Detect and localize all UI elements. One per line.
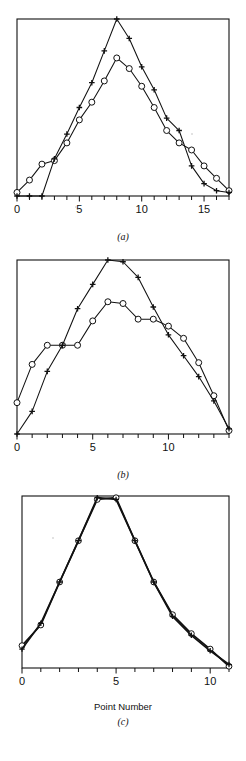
data-point-circle — [76, 117, 82, 123]
scan-speck — [191, 133, 193, 135]
data-point-circle — [64, 140, 70, 146]
scan-speck — [75, 206, 77, 208]
data-point-cross — [139, 64, 145, 70]
data-point-cross — [29, 409, 35, 415]
x-axis-tick-label: 10 — [136, 203, 148, 215]
data-point-circle — [39, 161, 45, 167]
data-point-circle — [90, 318, 96, 324]
data-point-cross — [14, 431, 20, 437]
data-point-circle — [139, 83, 145, 89]
x-axis-tick-label: 5 — [113, 675, 119, 687]
data-point-circle — [196, 360, 202, 366]
data-point-cross — [150, 304, 156, 310]
series-line-circle-series — [17, 58, 229, 193]
data-point-circle — [29, 361, 35, 367]
panel-c-xaxis-title: Point Number — [0, 702, 246, 712]
data-point-cross — [101, 48, 107, 54]
data-point-cross — [44, 369, 50, 375]
panel-b: 0510 — [0, 248, 246, 470]
plot-frame — [17, 19, 229, 196]
data-point-circle — [201, 163, 207, 169]
data-point-circle — [14, 400, 20, 406]
data-point-cross — [105, 257, 111, 263]
figure-three-panel-line-charts: 051015 (a) 0510 (b) 0510 Point Number (c… — [0, 0, 246, 761]
data-point-circle — [150, 316, 156, 322]
data-point-circle — [75, 342, 81, 348]
series-markers-circle-series — [14, 55, 232, 196]
data-point-circle — [44, 342, 50, 348]
data-point-circle — [214, 175, 220, 181]
panel-a-caption: (a) — [0, 232, 246, 242]
x-axis-tick-label: 0 — [14, 203, 20, 215]
data-point-circle — [26, 177, 32, 183]
panel-a: 051015 — [0, 0, 246, 232]
data-point-cross — [114, 16, 120, 22]
x-axis-tick-label: 5 — [90, 441, 96, 453]
data-point-cross — [151, 87, 157, 93]
data-point-cross — [89, 80, 95, 86]
data-point-circle — [89, 99, 95, 105]
panel-b-caption: (b) — [0, 470, 246, 480]
data-point-circle — [164, 128, 170, 134]
data-point-circle — [176, 140, 182, 146]
series-line-cross-series — [17, 19, 229, 196]
data-point-circle — [101, 78, 107, 84]
panel-c: 0510 — [0, 486, 246, 702]
x-axis-tick-label: 10 — [162, 441, 174, 453]
data-point-cross — [75, 306, 81, 312]
data-point-circle — [114, 55, 120, 61]
data-point-cross — [126, 36, 132, 42]
series-line-circle-series — [17, 302, 229, 431]
scan-speck — [52, 537, 54, 539]
series-markers-cross-series — [14, 16, 232, 199]
panel-a-plot: 051015 — [0, 0, 246, 232]
x-axis-tick-label: 0 — [14, 441, 20, 453]
data-point-circle — [126, 66, 132, 72]
x-axis-tick-label: 15 — [198, 203, 210, 215]
data-point-circle — [105, 299, 111, 305]
x-axis-tick-label: 10 — [204, 675, 216, 687]
x-axis-tick-label: 0 — [19, 675, 25, 687]
data-point-circle — [189, 147, 195, 153]
data-point-circle — [165, 323, 171, 329]
panel-c-plot: 0510 — [0, 486, 246, 702]
series-markers-circle-series — [14, 299, 232, 434]
data-point-cross — [77, 105, 83, 111]
data-point-cross — [27, 193, 33, 199]
data-point-cross — [39, 193, 45, 199]
data-point-circle — [151, 105, 157, 111]
data-point-circle — [120, 301, 126, 307]
panel-b-plot: 0510 — [0, 248, 246, 470]
data-point-cross — [214, 188, 220, 194]
data-point-cross — [90, 282, 96, 288]
x-axis-tick-label: 5 — [76, 203, 82, 215]
data-point-cross — [64, 131, 70, 137]
panel-c-caption: (c) — [0, 717, 246, 727]
data-point-circle — [135, 316, 141, 322]
data-point-circle — [181, 335, 187, 341]
